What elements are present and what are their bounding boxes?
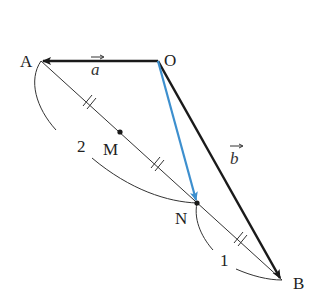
label-n: N [175,209,187,228]
ratio-label-an: 2 [77,137,86,156]
label-m: M [103,140,118,159]
label-o: O [164,51,176,70]
segment-ab [41,61,282,280]
vector-b-arrow [158,61,280,278]
label-vector-a: a [91,55,104,79]
vector-on-arrow [158,61,196,200]
svg-text:b: b [230,149,239,168]
label-vector-b: b [230,144,243,168]
point-m [117,129,122,134]
tick-mn [151,157,164,171]
tick-nb [234,232,247,246]
label-b: B [293,274,304,293]
svg-text:a: a [91,60,100,79]
ratio-label-nb: 1 [220,251,229,270]
vector-diagram: O A B M N a b 2 1 [0,0,326,306]
point-n [194,200,199,205]
label-a: A [20,52,33,71]
brace-arc-an-lower [92,158,197,203]
tick-am [83,95,96,109]
